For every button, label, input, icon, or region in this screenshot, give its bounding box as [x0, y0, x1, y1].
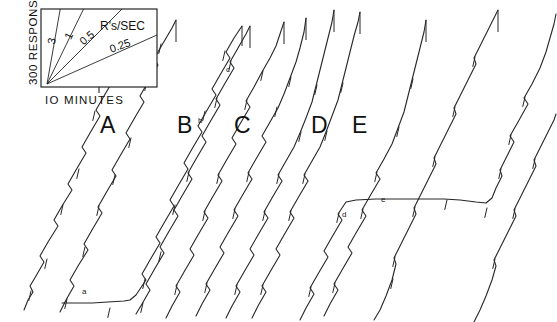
legend-y-axis-label: 300 RESPONSES — [28, 0, 40, 85]
rate-calibration-legend — [41, 9, 157, 93]
cumulative-record-plot — [0, 0, 557, 322]
legend-x-axis-label: IO MINUTES — [45, 95, 124, 107]
cumulative-record-figure: 300 RESPONSES IO MINUTES 310.50.25R's/SE… — [0, 0, 557, 322]
